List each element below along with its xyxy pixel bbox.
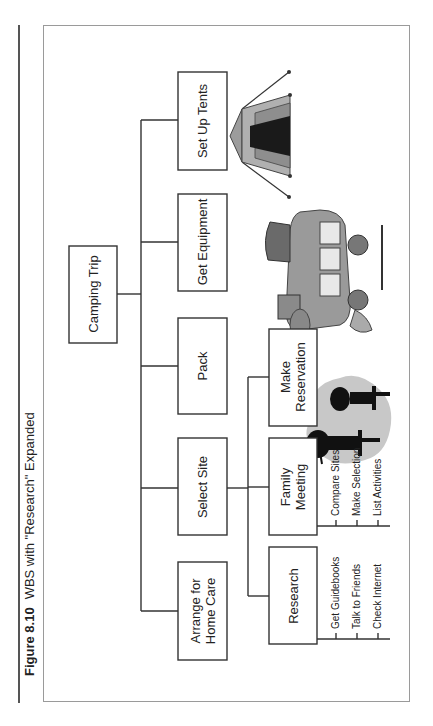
node-label: Camping Trip — [86, 255, 101, 332]
wbs-diagram: Camping Trip Set Up Tents Get Equipment … — [0, 0, 433, 726]
wbs-node-arrange-home-care: Arrange for Home Care — [178, 562, 227, 660]
task-check-internet: Check Internet — [372, 564, 383, 629]
wbs-node-make-reservation: Make Reservation — [269, 329, 317, 426]
node-label-line2: Reservation — [293, 342, 308, 411]
node-label-line2: Home Care — [203, 578, 218, 644]
wbs-node-select-site: Select Site — [178, 438, 227, 535]
wbs-node-set-up-tents: Set Up Tents — [178, 72, 227, 170]
task-talk-to-friends: Talk to Friends — [351, 564, 362, 629]
wbs-node-research: Research — [269, 547, 317, 644]
task-list-activities: List Activities — [372, 459, 383, 516]
node-label-line2: Meeting — [293, 464, 308, 510]
node-label-line1: Make — [278, 361, 293, 393]
task-get-guidebooks: Get Guidebooks — [330, 557, 341, 629]
node-label-line1: Arrange for — [188, 578, 203, 644]
node-label-line1: Family — [278, 467, 293, 506]
tent-clipart — [230, 70, 292, 199]
node-label: Select Site — [195, 456, 210, 518]
task-make-selection: Make Selection — [351, 448, 362, 516]
wbs-node-get-equipment: Get Equipment — [178, 194, 227, 291]
node-label: Research — [286, 568, 301, 624]
wbs-node-family-meeting: Family Meeting — [269, 438, 317, 535]
node-label: Set Up Tents — [195, 83, 210, 158]
task-compare-sites: Compare Sites — [330, 450, 341, 516]
loaded-car-clipart — [265, 210, 382, 341]
node-label: Pack — [195, 351, 210, 380]
wbs-node-pack: Pack — [178, 318, 227, 414]
family-silhouette-clipart — [306, 376, 391, 464]
node-label: Get Equipment — [195, 198, 210, 285]
wbs-node-camping-trip: Camping Trip — [69, 246, 117, 343]
